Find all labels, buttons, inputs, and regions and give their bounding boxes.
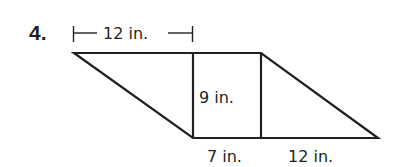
trapezoid-diagram: 4. 12 in. 9 in. 7 in. 12 in. bbox=[0, 0, 393, 167]
triangle-base-label: 12 in. bbox=[288, 147, 333, 166]
rectangle-width-label: 7 in. bbox=[207, 147, 242, 166]
problem-number: 4. bbox=[29, 21, 47, 44]
top-dimension-label: 12 in. bbox=[103, 24, 148, 43]
height-label: 9 in. bbox=[199, 88, 234, 107]
